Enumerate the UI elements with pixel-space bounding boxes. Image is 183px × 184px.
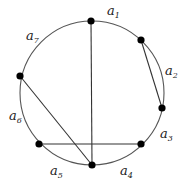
arc-label-a2: a2 (165, 63, 178, 80)
node-n5 (88, 161, 95, 168)
arc-labels: a1a2a3a4a5a6a7 (9, 3, 178, 180)
chord-n1-n5 (91, 21, 92, 165)
arc-label-a7: a7 (26, 28, 40, 45)
arc-label-a5: a5 (50, 163, 63, 180)
arc-label-a1: a1 (107, 3, 120, 20)
node-n6 (35, 140, 42, 147)
node-n7 (16, 72, 23, 79)
arc-label-a4: a4 (120, 163, 133, 180)
node-n4 (137, 140, 144, 147)
chord-n2-n3 (141, 40, 162, 108)
node-n2 (137, 36, 144, 43)
arc-label-a6: a6 (9, 108, 22, 125)
arc-label-a3: a3 (160, 126, 173, 143)
node-n3 (158, 104, 165, 111)
node-n1 (87, 17, 94, 24)
chord-n7-n5 (20, 76, 92, 165)
chord-diagram: a1a2a3a4a5a6a7 (0, 0, 183, 184)
